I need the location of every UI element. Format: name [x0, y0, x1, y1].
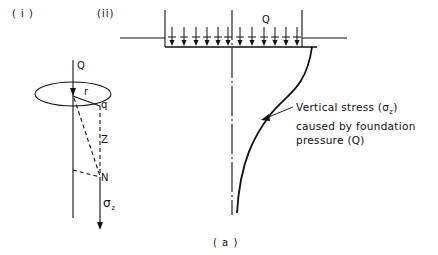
panel-label-i: ( i ) — [12, 8, 34, 19]
pressure-arrows — [168, 27, 301, 46]
slant-distance-line — [74, 98, 100, 176]
point-q-label: q — [101, 99, 108, 110]
annotation-leader-line — [266, 107, 293, 118]
radius-label: r — [84, 86, 89, 97]
stress-arrow-icon — [97, 222, 103, 230]
annotation-line-1: Vertical stress (σz) — [296, 100, 416, 119]
load-label-right: Q — [262, 14, 271, 25]
stress-annotation: Vertical stress (σz) caused by foundatio… — [296, 100, 416, 147]
radius-line — [73, 96, 100, 106]
point-n-label: N — [101, 172, 109, 183]
annotation-line-2: caused by foundation — [296, 119, 416, 133]
point-load-diagram — [35, 60, 111, 230]
annotation-line-3: pressure (Q) — [296, 133, 416, 147]
horizontal-offset-line — [73, 170, 100, 177]
figure-caption: ( a ) — [213, 237, 238, 248]
stress-label-left: σz — [103, 196, 116, 212]
load-label-left: Q — [77, 60, 86, 71]
depth-label: Z — [101, 134, 109, 145]
panel-label-ii: (ii) — [97, 8, 114, 19]
load-arrow-icon — [70, 88, 76, 96]
leader-arrow-icon — [261, 114, 270, 121]
